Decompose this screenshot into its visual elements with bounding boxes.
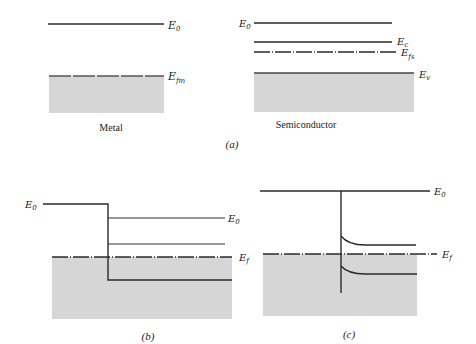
panel-b-caption: (b): [142, 330, 155, 343]
semiconductor-e0-label: E0: [238, 18, 251, 31]
panel-b: E0 E0 Ef (b): [24, 199, 250, 343]
panel-a-semiconductor: E0 Ec Efs Ev Semiconductor: [238, 18, 430, 130]
panel-b-left-e0-label: E0: [24, 199, 37, 212]
panel-a-caption: (a): [226, 138, 239, 151]
panel-b-right-e0-label: E0: [227, 213, 240, 226]
panel-a-metal: E0 Efm Metal: [48, 19, 186, 133]
efs-label: Efs: [400, 47, 415, 61]
metal-efm-label: Efm: [167, 70, 186, 85]
panel-c-conduction-band-bending: [341, 236, 416, 245]
metal-filled-states: [49, 76, 164, 113]
panel-c: E0 Ef (c): [260, 186, 453, 341]
panel-c-filled-states: [263, 254, 417, 316]
semiconductor-title: Semiconductor: [276, 119, 337, 130]
panel-c-ef-label: Ef: [441, 249, 453, 262]
semiconductor-valence-band-fill: [254, 73, 414, 112]
metal-e0-label: E0: [167, 19, 181, 33]
panel-c-e0-label: E0: [433, 186, 446, 199]
metal-title: Metal: [99, 122, 123, 133]
band-diagram-figure: E0 Efm Metal E0 Ec Efs Ev Semiconductor …: [0, 0, 476, 344]
panel-b-ef-label: Ef: [238, 252, 250, 265]
panel-c-caption: (c): [343, 328, 356, 341]
panel-b-filled-states: [52, 257, 232, 319]
ev-label: Ev: [418, 69, 430, 82]
